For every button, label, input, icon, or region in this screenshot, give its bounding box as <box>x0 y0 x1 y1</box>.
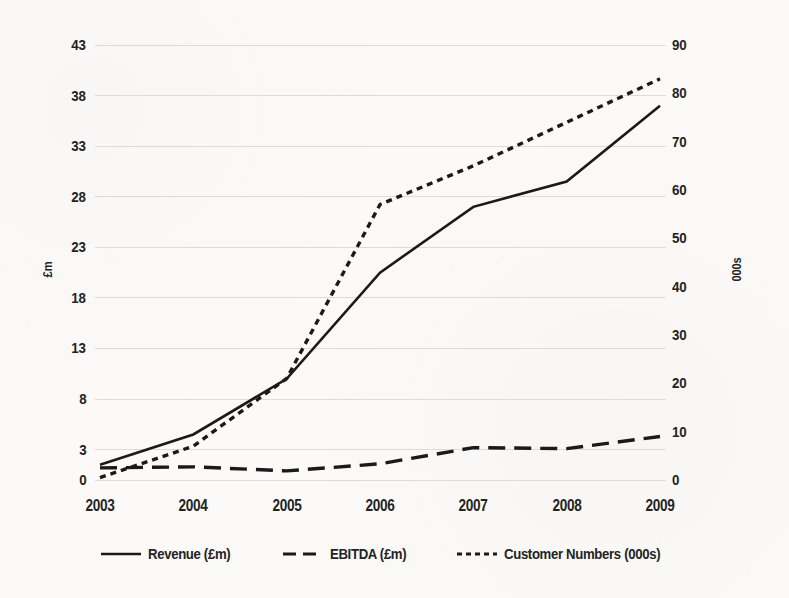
legend-swatch-short-dash <box>457 548 497 560</box>
y-axis-left-tick-label: 28 <box>72 189 86 205</box>
y-axis-right-ticks: 9080706050403020100 <box>672 45 720 480</box>
legend-item[interactable]: Customer Numbers (000s) <box>457 546 688 562</box>
legend-label: EBITDA (£m) <box>330 546 406 562</box>
plot-svg <box>100 45 660 480</box>
y-axis-right-tick-label: 40 <box>672 279 686 295</box>
legend-label: Customer Numbers (000s) <box>504 546 660 562</box>
legend-swatch-long-dash <box>283 548 323 560</box>
y-axis-left-title: £m <box>40 262 55 278</box>
y-axis-right-tick-label: 70 <box>672 134 686 150</box>
y-axis-left-tick-label: 18 <box>72 290 86 306</box>
series-line-2 <box>100 437 660 471</box>
y-axis-right-tick-label: 20 <box>672 375 686 391</box>
y-axis-left-tick-label: 23 <box>72 239 86 255</box>
legend-item[interactable]: EBITDA (£m) <box>283 546 420 562</box>
y-axis-left-tick-label: 43 <box>72 37 86 53</box>
legend-swatch-solid <box>101 548 141 560</box>
x-axis-tick-label: 2003 <box>86 498 115 514</box>
x-axis-tick-label: 2005 <box>272 498 301 514</box>
y-axis-right-tick-label: 30 <box>672 327 686 343</box>
x-axis-ticks: 2003200420052006200720082009 <box>100 498 660 522</box>
series-line-1 <box>100 106 660 465</box>
y-axis-left-tick-label: 3 <box>79 442 86 458</box>
y-axis-left-tick-label: 33 <box>72 138 86 154</box>
y-axis-right-tick-label: 60 <box>672 182 686 198</box>
legend-item[interactable]: Revenue (£m) <box>101 546 245 562</box>
y-axis-left-tick-label: 0 <box>79 472 86 488</box>
x-axis-tick-label: 2009 <box>646 498 675 514</box>
x-axis-tick-label: 2006 <box>366 498 395 514</box>
y-axis-left-tick-label: 13 <box>72 340 86 356</box>
y-axis-right-tick-label: 80 <box>672 85 686 101</box>
y-axis-right-tick-label: 0 <box>672 472 679 488</box>
chart-container: 43383328231813830 9080706050403020100 20… <box>0 0 789 598</box>
legend-label: Revenue (£m) <box>148 546 230 562</box>
y-axis-right-title: 000s <box>729 257 744 281</box>
chart-legend: Revenue (£m)EBITDA (£m)Customer Numbers … <box>0 546 789 562</box>
y-axis-right-tick-label: 50 <box>672 230 686 246</box>
x-axis-tick-label: 2007 <box>459 498 488 514</box>
x-axis-tick-label: 2004 <box>179 498 208 514</box>
plot-area <box>100 45 660 480</box>
y-axis-right-tick-label: 10 <box>672 424 686 440</box>
y-axis-left-tick-label: 8 <box>79 391 86 407</box>
x-axis-tick-label: 2008 <box>552 498 581 514</box>
series-line-3 <box>100 79 660 478</box>
y-axis-right-tick-label: 90 <box>672 37 686 53</box>
y-axis-left-tick-label: 38 <box>72 88 86 104</box>
